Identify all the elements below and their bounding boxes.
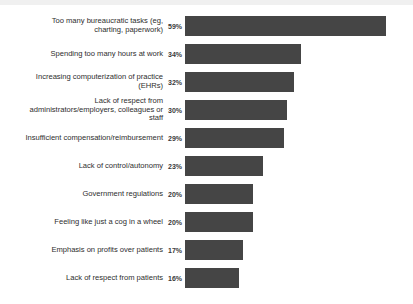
bar-row: Insufficient compensation/reimbursement2… [0,128,413,148]
category-label: Insufficient compensation/reimbursement [0,134,163,143]
bar-row: Feeling like just a cog in a wheel20% [0,212,413,232]
bar-track [185,44,413,64]
category-label: Too many bureaucratic tasks (eg, chartin… [0,17,163,34]
bar-row: Increasing computerization of practice (… [0,72,413,92]
bar-track [185,72,413,92]
bar-track [185,212,413,232]
plot-area: Too many bureaucratic tasks (eg, chartin… [0,6,413,302]
bar [185,100,287,120]
bar [185,128,284,148]
bar-row: Emphasis on profits over patients17% [0,240,413,260]
bar [185,156,263,176]
category-label: Emphasis on profits over patients [0,246,163,255]
category-label: Feeling like just a cog in a wheel [0,218,163,227]
bar-chart: Too many bureaucratic tasks (eg, chartin… [0,0,413,304]
category-label: Increasing computerization of practice (… [0,73,163,90]
scan-edge-band [0,0,413,5]
bar [185,44,301,64]
bar [185,16,386,36]
category-label: Lack of control/autonomy [0,162,163,171]
bar-row: Lack of respect from administrators/empl… [0,100,413,120]
bar-track [185,128,413,148]
value-label: 20% [163,191,185,198]
value-label: 16% [163,275,185,282]
value-label: 59% [163,23,185,30]
value-label: 32% [163,79,185,86]
bar-track [185,268,413,288]
bar [185,212,253,232]
value-label: 17% [163,247,185,254]
bar [185,184,253,204]
value-label: 23% [163,163,185,170]
value-label: 20% [163,219,185,226]
value-label: 34% [163,51,185,58]
value-label: 29% [163,135,185,142]
bar-row: Lack of respect from patients16% [0,268,413,288]
bar-row: Lack of control/autonomy23% [0,156,413,176]
bar-track [185,240,413,260]
category-label: Lack of respect from patients [0,274,163,283]
bar [185,72,294,92]
category-label: Lack of respect from administrators/empl… [0,97,163,123]
bar-track [185,184,413,204]
value-label: 30% [163,107,185,114]
bar [185,240,243,260]
bar-row: Government regulations20% [0,184,413,204]
bar-track [185,156,413,176]
bar-row: Too many bureaucratic tasks (eg, chartin… [0,16,413,36]
category-label: Spending too many hours at work [0,50,163,59]
bar-track [185,16,413,36]
bar [185,268,239,288]
bar-track [185,100,413,120]
category-label: Government regulations [0,190,163,199]
bar-row: Spending too many hours at work34% [0,44,413,64]
